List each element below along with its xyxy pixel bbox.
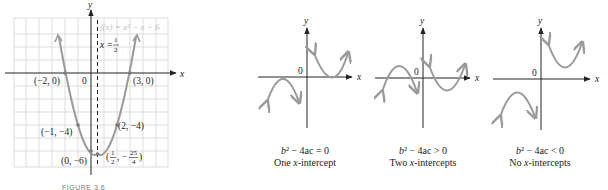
y-axis-label: y: [537, 16, 543, 26]
origin-label: 0: [532, 68, 537, 78]
x-axis-label: x: [474, 73, 480, 83]
point-label-neg1-neg4: (−1, −4): [41, 127, 72, 138]
intercept-count: No x-intercepts: [485, 157, 595, 169]
parabola-curve: [59, 37, 136, 155]
svg-text:25: 25: [130, 149, 138, 157]
x-axis-label: x: [356, 72, 362, 82]
upward-parabola: [548, 43, 582, 68]
panel-two-intercepts: x y 0: [375, 16, 480, 128]
x-axis-label: x: [594, 74, 600, 84]
figure-caption: FIGURE 3.6: [62, 184, 105, 190]
y-axis-label: y: [303, 16, 309, 26]
origin-label: 0: [298, 66, 303, 76]
svg-text:2: 2: [111, 158, 115, 166]
origin-label: 0: [414, 67, 419, 77]
svg-text:1: 1: [111, 149, 115, 157]
y-axis-label: y: [419, 16, 425, 26]
y-axis-label: y: [87, 0, 93, 10]
point-label-2-neg4: (2, −4): [118, 121, 144, 132]
discriminant-positive: b² − 4ac > 0: [368, 145, 478, 157]
point-label-0-neg6: (0, −6): [61, 156, 87, 167]
caption-two-intercepts: b² − 4ac > 0 Two x-intercepts: [368, 145, 478, 169]
downward-parabola: [500, 93, 535, 118]
svg-text:4: 4: [132, 158, 136, 166]
x-axis-label: x: [179, 69, 185, 79]
panel-one-intercept: x y 0: [258, 16, 362, 128]
svg-text:(: (: [106, 152, 109, 163]
symmetry-fraction-den: 2: [114, 46, 118, 54]
vertex-label: ( 1 2 , − 25 4 ): [106, 149, 142, 166]
discriminant-negative: b² − 4ac < 0: [485, 145, 595, 157]
downward-parabola: [267, 79, 299, 102]
caption-no-intercepts: b² − 4ac < 0 No x-intercepts: [485, 145, 595, 169]
discriminant-equals-zero: b² − 4ac = 0: [250, 145, 360, 157]
symmetry-fraction-num: 1: [114, 36, 118, 44]
point-label-3-0: (3, 0): [133, 76, 154, 87]
origin-label: 0: [82, 76, 87, 86]
svg-text:): ): [139, 152, 142, 163]
intercept-count: One x-intercept: [250, 157, 360, 169]
symmetry-label: x =: [99, 40, 113, 50]
intercept-count: Two x-intercepts: [368, 157, 478, 169]
svg-text:, −: , −: [117, 152, 127, 162]
caption-one-intercept: b² − 4ac = 0 One x-intercept: [250, 145, 360, 169]
main-graph: x y 0 x = 1 2 f(x) = x² − x − 6 (−2, 0) …: [5, 0, 185, 175]
panel-no-intercepts: x y 0: [493, 16, 600, 130]
function-label: f(x) = x² − x − 6: [100, 22, 160, 32]
upward-parabola: [314, 53, 348, 78]
downward-parabola: [382, 66, 417, 92]
point-label-neg2-0: (−2, 0): [34, 76, 60, 87]
